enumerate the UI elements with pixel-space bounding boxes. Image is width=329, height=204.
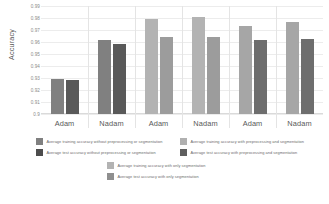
legend-swatch-icon [180,149,187,156]
x-tick-label: Adam [41,115,88,131]
bar-training [145,19,158,114]
chart-legend: Average training accuracy without prepro… [0,138,329,200]
y-tick-label: 0.92 [31,88,40,93]
bar-group [135,6,182,114]
bar-training [239,26,252,114]
legend-item: Average test accuracy with only segmenta… [107,173,307,180]
y-tick-label: 0.96 [31,40,40,45]
legend-label: Average training accuracy with only segm… [118,163,206,168]
legend-item: Average test accuracy without preprocess… [36,149,186,156]
y-tick-label: 0.99 [31,4,40,9]
y-axis-tick-labels: 0.990.980.970.960.950.940.930.920.910.9 [20,6,40,114]
y-tick-label: 0.91 [31,100,40,105]
y-tick-label: 0.94 [31,64,40,69]
bar-group [88,6,135,114]
bar-training [98,40,111,114]
legend-item: Average training accuracy with only segm… [107,162,307,169]
bar-group [182,6,229,114]
plot-panel [41,6,323,114]
bar-training [286,22,299,114]
x-tick-label: Nadam [182,115,229,131]
bar-test [160,37,173,114]
legend-column-center: Average training accuracy with only segm… [107,162,307,184]
bar-groups [41,6,323,114]
y-tick-label: 0.98 [31,16,40,21]
y-tick-label: 0.97 [31,28,40,33]
x-axis-category-labels: AdamNadamAdamNadamAdamNadam [41,115,323,131]
bar-test [207,37,220,114]
legend-label: Average test accuracy with preprocessing… [191,150,298,155]
bar-training [192,17,205,114]
legend-label: Average test accuracy with only segmenta… [118,174,199,179]
bar-test [113,44,126,114]
legend-column-right: Average training accuracy with preproces… [180,138,329,160]
bar-chart: Accuracy 0.990.980.970.960.950.940.930.9… [0,0,329,204]
legend-label: Average test accuracy without preprocess… [47,150,156,155]
bar-test [254,40,267,114]
bar-group [276,6,323,114]
legend-label: Average training accuracy without prepro… [47,139,163,144]
y-axis-title: Accuracy [7,15,16,75]
x-tick-label: Adam [135,115,182,131]
bar-test [66,80,79,114]
x-tick-label: Nadam [88,115,135,131]
legend-item: Average training accuracy with preproces… [180,138,329,145]
y-tick-label: 0.93 [31,76,40,81]
legend-swatch-icon [107,173,114,180]
legend-swatch-icon [107,162,114,169]
legend-swatch-icon [36,149,43,156]
x-tick-label: Adam [229,115,276,131]
bar-test [301,39,314,114]
legend-swatch-icon [36,138,43,145]
x-tick-label: Nadam [276,115,323,131]
plot-area: Accuracy 0.990.980.970.960.950.940.930.9… [0,6,329,136]
y-tick-label: 0.9 [33,112,40,117]
bar-training [51,79,64,114]
legend-label: Average training accuracy with preproces… [191,139,305,144]
legend-column-left: Average training accuracy without prepro… [36,138,186,160]
bar-group [229,6,276,114]
bar-group [41,6,88,114]
legend-item: Average training accuracy without prepro… [36,138,186,145]
y-tick-label: 0.95 [31,52,40,57]
legend-item: Average test accuracy with preprocessing… [180,149,329,156]
legend-swatch-icon [180,138,187,145]
